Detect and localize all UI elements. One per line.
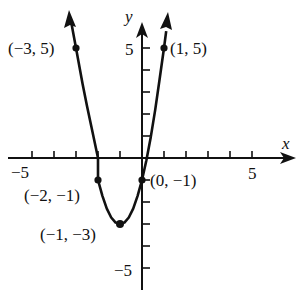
x-axis-label: x — [281, 134, 290, 153]
point-label-m3-5: (−3, 5) — [8, 39, 54, 58]
parabola-curve — [72, 24, 167, 224]
point-label-1-5: (1, 5) — [170, 39, 207, 58]
point-m3-5 — [72, 44, 79, 51]
point-1-5 — [160, 44, 167, 51]
point-m2-m1 — [94, 176, 101, 183]
curve-right-arrow-icon — [160, 12, 172, 30]
point-0-m1 — [138, 176, 145, 183]
point-label-m2-m1: (−2, −1) — [24, 186, 80, 205]
parabola-graph: x y −5 5 5 −5 (−3, 5) (1, 5) (−2, −1) (0… — [0, 0, 299, 290]
y-tick-label-5: 5 — [125, 40, 134, 59]
point-label-m1-m3: (−1, −3) — [40, 225, 96, 244]
y-axis-label: y — [123, 7, 133, 26]
x-tick-label-neg5: −5 — [11, 163, 29, 182]
y-tick-label-neg5: −5 — [114, 261, 132, 280]
curve-left-arrow-icon — [64, 10, 76, 28]
x-tick-label-5: 5 — [248, 164, 257, 183]
point-m1-m3 — [116, 220, 124, 228]
point-label-0-m1: (0, −1) — [150, 171, 196, 190]
